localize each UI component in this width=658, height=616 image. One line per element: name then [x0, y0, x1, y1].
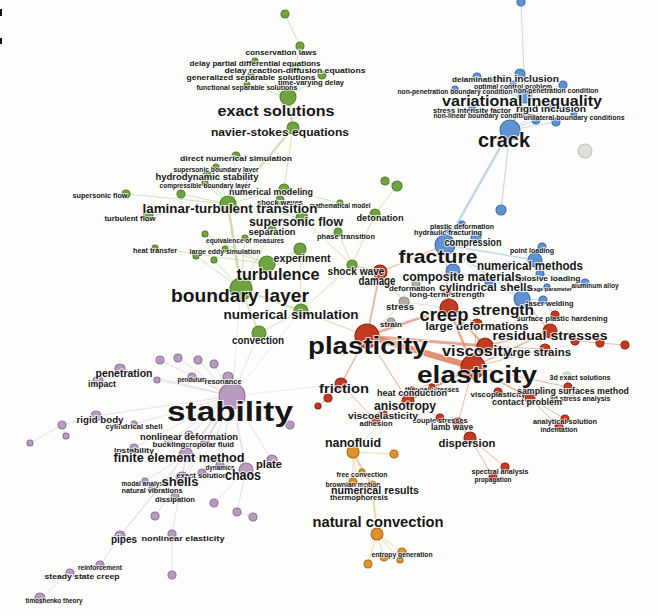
label-navier-stokes-equations: navier-stokes equations	[211, 126, 349, 138]
node-node[interactable]	[392, 181, 402, 191]
label-laminar-turbulent-transition: laminar-turbulent transition	[143, 202, 318, 216]
label-stress: stress	[386, 302, 414, 312]
label-thin-inclusion: thin inclusion	[493, 74, 559, 84]
label-dissipation: dissipation	[155, 496, 195, 504]
label-nanofluid: nanofluid	[325, 436, 381, 450]
edge-artifact	[0, 9, 2, 16]
label-nonlinear-deformation: nonlinear deformation	[140, 432, 238, 442]
edge-artifact	[0, 38, 2, 44]
label-spectral-analysis: spectral analysis	[472, 468, 529, 476]
label-stability: stability	[167, 397, 293, 427]
label-turbulence: turbulence	[237, 266, 320, 283]
label-supersonic-flow: supersonic flow	[249, 215, 344, 229]
label-pendulum: pendulum	[178, 376, 207, 384]
label-damage: damage	[359, 274, 396, 288]
label-aluminum-alloy: aluminum alloy	[572, 282, 619, 290]
node-node[interactable]	[174, 354, 182, 362]
node-node[interactable]	[281, 10, 289, 18]
label-hydrodynamic-stability: hydrodynamic stability	[156, 172, 259, 182]
label-large-strains: large strains	[503, 347, 571, 358]
keyword-network-map[interactable]: damage parameterfunctional separable sol…	[0, 0, 658, 616]
label-anisotropy: anisotropy	[374, 399, 436, 413]
node-node[interactable]	[168, 571, 176, 579]
label-entropy-generation: entropy generation	[372, 551, 433, 559]
label-steady-state-creep: steady state creep	[45, 572, 120, 581]
label-finite-element-method: finite element method	[114, 451, 245, 465]
node-node[interactable]	[233, 508, 241, 516]
label-indentation: indentation	[541, 426, 578, 433]
node-node[interactable]	[156, 356, 164, 364]
label-strength: strength	[472, 301, 534, 318]
label-supersonic-flow: supersonic flow	[73, 192, 129, 200]
label-exact-solutions: exact solutions	[218, 102, 335, 119]
node-node[interactable]	[58, 421, 66, 429]
label-detonation: detonation	[357, 213, 404, 223]
label-large-eddy-simulation: large eddy simulation	[190, 248, 261, 256]
label-direct-numerical-simulation: direct numerical simulation	[180, 154, 292, 163]
label-convection: convection	[232, 335, 284, 346]
node-node[interactable]	[517, 0, 525, 6]
label-contact-problem: contact problem	[492, 397, 562, 407]
label-dispersion: dispersion	[439, 437, 496, 449]
label-hydraulic-fracturing: hydraulic fracturing	[414, 229, 482, 237]
label-numerical-results: numerical results	[331, 485, 419, 496]
label-nonlinear-elasticity: nonlinear elasticity	[142, 534, 226, 543]
label-plasticity: plasticity	[308, 333, 428, 359]
label-crack: crack	[478, 129, 531, 151]
label-generalized-separable-solutions: generalized separable solutions	[187, 73, 317, 82]
label-friction: friction	[319, 382, 369, 396]
node-node[interactable]	[496, 205, 506, 215]
label-fracture: fracture	[399, 246, 478, 267]
label-free-convection: free convection	[337, 471, 388, 478]
label-timoshenko-theory: timoshenko theory	[26, 597, 83, 605]
node-node[interactable]	[27, 440, 33, 446]
label-conservation-laws: conservation laws	[246, 48, 318, 57]
node-node[interactable]	[210, 499, 218, 507]
label-reinforcement: reinforcement	[78, 564, 123, 571]
label-boundary-layer: boundary layer	[171, 285, 310, 306]
label-creep: creep	[420, 304, 469, 325]
label-rigid-body: rigid body	[77, 415, 124, 425]
label-unilateral-boundary-conditions: unilateral boundary conditions	[524, 114, 625, 122]
node-node[interactable]	[315, 403, 321, 409]
labels-layer: damage parameterfunctional separable sol…	[26, 48, 630, 605]
label-residual-stresses: residual stresses	[493, 328, 608, 343]
label-strain: strain	[380, 321, 402, 328]
label-propagation: propagation	[475, 476, 512, 484]
label-analytical-solution: analytical solution	[533, 418, 597, 426]
label-shells: shells	[162, 475, 199, 489]
label-phase-transition: phase transition	[317, 233, 375, 241]
node-node[interactable]	[390, 450, 398, 458]
node-node[interactable]	[578, 144, 592, 158]
node-node[interactable]	[154, 377, 160, 383]
label-numerical-modeling: numerical modeling	[229, 187, 313, 197]
node-node[interactable]	[63, 433, 69, 439]
node-node[interactable]	[364, 560, 372, 568]
label-resonance: resonance	[205, 377, 242, 386]
node-node[interactable]	[397, 557, 403, 563]
label-equivalence-of-measures: equivalence of measures	[206, 237, 284, 245]
node-node[interactable]	[381, 177, 389, 185]
node-node[interactable]	[194, 356, 202, 364]
label-variational-inequality: variational inequality	[442, 93, 602, 109]
label-natural-convection: natural convection	[313, 514, 444, 530]
node-node[interactable]	[177, 190, 185, 198]
label-point-loading: point loading	[510, 247, 554, 255]
node-node[interactable]	[210, 360, 218, 368]
label-penetration: penetration	[96, 368, 153, 379]
node-node[interactable]	[621, 341, 629, 349]
label-elasticity: elasticity	[417, 362, 537, 388]
label-heat-conduction: heat conduction	[377, 388, 447, 398]
node-node[interactable]	[151, 512, 159, 520]
label-experiment: experiment	[274, 252, 331, 264]
node-node[interactable]	[211, 257, 217, 263]
label-pipes: pipes	[111, 534, 137, 545]
node-node[interactable]	[249, 513, 257, 521]
label-mathematical-model: mathematical model	[310, 202, 371, 209]
network-svg: damage parameterfunctional separable sol…	[0, 0, 658, 616]
edge	[232, 311, 301, 396]
label-numerical-simulation: numerical simulation	[224, 307, 359, 322]
label-composite-materials: composite materials	[403, 270, 522, 284]
label-lamb-wave: lamb wave	[431, 422, 473, 432]
edge	[30, 425, 62, 443]
